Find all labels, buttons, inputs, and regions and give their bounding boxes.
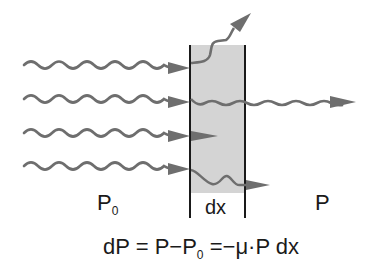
eq-lhs: dP [103, 234, 130, 259]
eq-p0: P [182, 234, 197, 259]
incident-wave-1 [24, 62, 178, 69]
incident-power-label: P0 [97, 190, 118, 216]
eq-equals-2: = [210, 234, 223, 259]
eq-minus: − [169, 234, 182, 259]
layer-thickness-label: dx [205, 196, 226, 219]
arrowhead-icon [246, 180, 270, 190]
eq-p0-subscript: 0 [197, 248, 204, 262]
p0-main: P [97, 190, 112, 215]
arrowhead-icon [168, 62, 190, 74]
attenuation-equation: dP = P−P0 =−μ·P dx [103, 234, 299, 260]
incident-wave-2 [24, 96, 178, 103]
arrowhead-icon [168, 130, 190, 142]
transmitted-power-label: P [315, 190, 330, 216]
p0-subscript: 0 [112, 204, 119, 218]
incident-wave-3 [24, 130, 178, 137]
eq-p: P [155, 234, 170, 259]
incident-wave-4 [24, 163, 178, 170]
eq-rhs: −μ·P dx [223, 234, 299, 259]
layer-slab [190, 45, 245, 193]
arrowhead-icon [168, 96, 190, 108]
eq-equals-1: = [136, 234, 149, 259]
arrowhead-icon [168, 163, 190, 175]
attenuation-diagram [0, 0, 378, 271]
